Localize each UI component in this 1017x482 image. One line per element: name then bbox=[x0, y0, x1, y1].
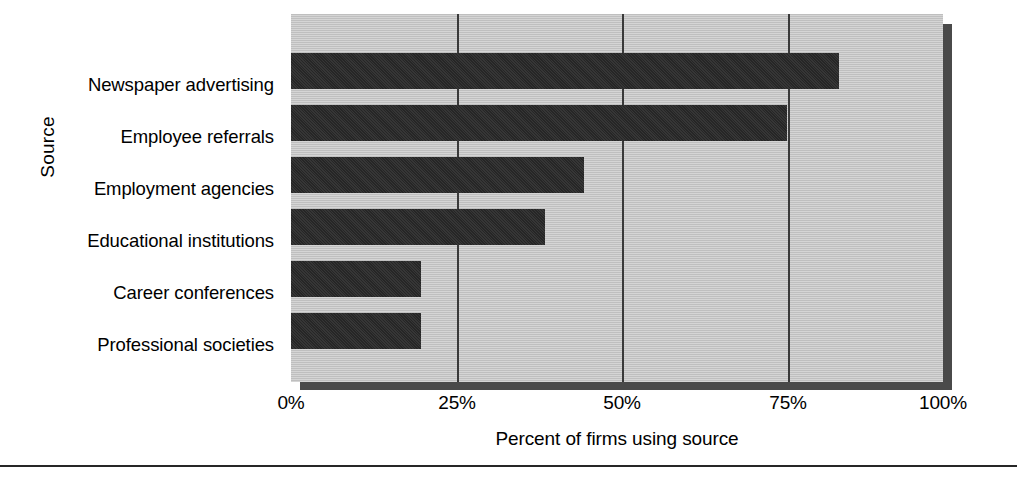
x-tick-label-3: 75% bbox=[743, 392, 833, 414]
bar-5[interactable] bbox=[291, 313, 421, 349]
bar-0[interactable] bbox=[291, 53, 839, 89]
x-tick-label-2: 50% bbox=[577, 392, 667, 414]
bar-1[interactable] bbox=[291, 105, 787, 141]
y-tick-label-1: Employee referrals bbox=[121, 125, 274, 149]
y-tick-label-2: Employment agencies bbox=[94, 177, 274, 201]
bar-chart-figure: Source Newspaper advertising Employee re… bbox=[0, 0, 1017, 482]
y-tick-label-4: Career conferences bbox=[113, 281, 274, 305]
y-tick-label-0: Newspaper advertising bbox=[88, 73, 274, 97]
plot-shadow-right bbox=[943, 24, 952, 390]
x-tick-label-1: 25% bbox=[412, 392, 502, 414]
x-tick-label-4: 100% bbox=[898, 392, 988, 414]
y-tick-label-5: Professional societies bbox=[97, 333, 274, 357]
figure-bottom-rule bbox=[0, 465, 1017, 467]
y-tick-label-3: Educational institutions bbox=[87, 229, 274, 253]
x-axis-title: Percent of firms using source bbox=[291, 428, 943, 450]
y-axis-tick-labels: Newspaper advertising Employee referrals… bbox=[60, 14, 282, 382]
bar-4[interactable] bbox=[291, 261, 421, 297]
bar-3[interactable] bbox=[291, 209, 545, 245]
plot-area bbox=[291, 14, 943, 382]
bar-2[interactable] bbox=[291, 157, 584, 193]
plot-shadow-bottom bbox=[300, 382, 952, 390]
x-tick-label-0: 0% bbox=[246, 392, 336, 414]
